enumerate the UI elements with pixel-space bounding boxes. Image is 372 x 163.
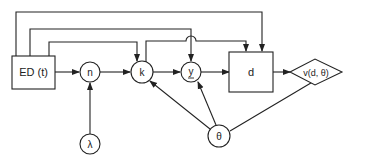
edge-theta-to-y [198,82,216,125]
node-d-label: d [248,66,254,78]
node-v-label: v(d, θ) [303,68,329,78]
node-y-label: y [189,66,194,77]
node-lambda-label: λ [88,139,93,150]
node-theta-label: θ [216,131,222,142]
influence-diagram: ED (t) n k y d v(d, θ) λ θ [0,0,372,163]
node-ed-label: ED (t) [19,66,48,78]
node-n-label: n [87,67,93,78]
edge-ed-to-k [49,42,137,61]
edge-ed-to-d [16,12,262,56]
